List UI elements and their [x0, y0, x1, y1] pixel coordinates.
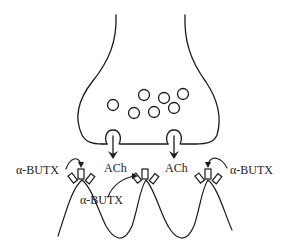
butx-arrowhead-left: [78, 162, 84, 168]
postsynaptic-membrane: [58, 180, 232, 238]
receptor-left: [68, 169, 95, 184]
ach-label-right: ACh: [165, 162, 188, 174]
diagram-canvas: [0, 0, 289, 249]
receptor-right: [195, 169, 222, 184]
butx-label-middle: α-BUTX: [80, 194, 123, 206]
presynaptic-terminal-left-wall: [78, 15, 116, 144]
butx-arrow-left: [66, 159, 81, 169]
ach-label-left: ACh: [104, 162, 127, 174]
butx-label-left: α-BUTX: [16, 164, 59, 176]
butx-arrowhead-right: [205, 162, 211, 168]
synaptic-vesicles: [108, 89, 189, 119]
butx-arrow-right: [208, 158, 227, 168]
nmj-diagram: ACh ACh α-BUTX α-BUTX α-BUTX: [0, 0, 289, 249]
butx-label-right: α-BUTX: [230, 164, 273, 176]
presynaptic-terminal-right-wall: [185, 15, 219, 144]
